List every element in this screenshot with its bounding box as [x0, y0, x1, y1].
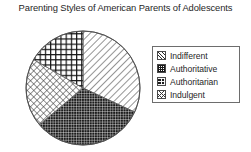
- crosshatch-swatch-icon: [157, 90, 166, 99]
- legend-label-indulgent: Indulgent: [170, 90, 205, 100]
- dense-dotted-swatch-icon: [157, 77, 166, 86]
- pie-svg: [24, 28, 144, 150]
- bold-grid-swatch-icon: [157, 64, 166, 73]
- chart-legend: Indifferent Authoritative Authoritarian …: [152, 46, 240, 103]
- legend-item-indulgent[interactable]: Indulgent: [157, 88, 236, 101]
- pie-plot-area: [24, 28, 144, 150]
- legend-item-authoritative[interactable]: Authoritative: [157, 62, 236, 75]
- legend-item-indifferent[interactable]: Indifferent: [157, 49, 236, 62]
- legend-item-authoritarian[interactable]: Authoritarian: [157, 75, 236, 88]
- legend-label-authoritarian: Authoritarian: [170, 77, 218, 87]
- page-title: Parenting Styles of American Parents of …: [2, 2, 249, 14]
- legend-label-authoritative: Authoritative: [170, 64, 217, 74]
- pie-chart-figure: Parenting Styles of American Parents of …: [0, 0, 251, 152]
- legend-label-indifferent: Indifferent: [170, 51, 208, 61]
- diagonal-lines-swatch-icon: [157, 51, 166, 60]
